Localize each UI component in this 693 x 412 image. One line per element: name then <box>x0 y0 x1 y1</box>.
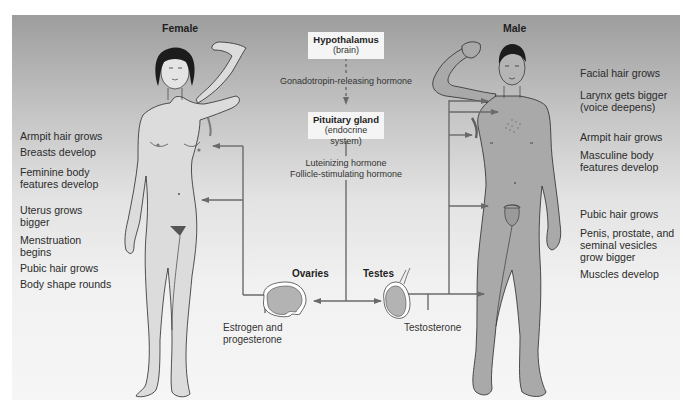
hypothalamus-label: Hypothalamus <box>312 34 380 45</box>
estrogen-progesterone-label: Estrogen and progesterone <box>223 322 283 346</box>
female-title: Female <box>162 22 198 34</box>
female-effect-breasts: Breasts develop <box>20 146 96 158</box>
male-effect-pubic-hair: Pubic hair grows <box>580 208 658 220</box>
pituitary-sublabel: (endocrine system) <box>312 125 380 147</box>
hypothalamus-sublabel: (brain) <box>312 45 380 56</box>
male-effect-facial-hair: Facial hair grows <box>580 67 660 79</box>
male-figure <box>433 42 561 397</box>
gnrh-label: Gonadotropin-releasing hormone <box>276 76 416 87</box>
female-effect-menstruation: Menstruation begins <box>20 234 81 258</box>
female-effect-uterus: Uterus grows bigger <box>20 204 82 228</box>
hypothalamus-box: Hypothalamus (brain) <box>308 32 384 59</box>
female-effect-body-shape: Body shape rounds <box>20 278 111 290</box>
ovaries-title: Ovaries <box>292 268 329 279</box>
female-effect-armpit-hair: Armpit hair grows <box>20 130 102 142</box>
male-effect-armpit-hair: Armpit hair grows <box>580 131 662 143</box>
male-title: Male <box>503 22 526 34</box>
lh-label: Luteinizing hormone <box>286 158 406 169</box>
male-effect-penis-prostate: Penis, prostate, and seminal vesicles gr… <box>580 227 674 263</box>
pituitary-box: Pituitary gland (endocrine system) <box>308 112 384 139</box>
testes-title: Testes <box>363 268 394 279</box>
male-effect-masculine-features: Masculine body features develop <box>580 149 658 173</box>
estrogen-line: Estrogen and <box>223 322 283 334</box>
ovary-illustration <box>264 282 307 317</box>
pituitary-label: Pituitary gland <box>312 114 380 125</box>
female-effect-feminine-features: Feminine body features develop <box>20 166 98 190</box>
female-effect-pubic-hair: Pubic hair grows <box>20 262 98 274</box>
progesterone-line: progesterone <box>223 334 283 346</box>
fsh-label: Follicle-stimulating hormone <box>276 169 416 180</box>
testosterone-label: Testosterone <box>404 322 461 334</box>
male-effect-muscles: Muscles develop <box>580 268 659 280</box>
male-effect-larynx: Larynx gets bigger (voice deepens) <box>580 89 667 113</box>
diagram-artwork <box>0 0 693 412</box>
